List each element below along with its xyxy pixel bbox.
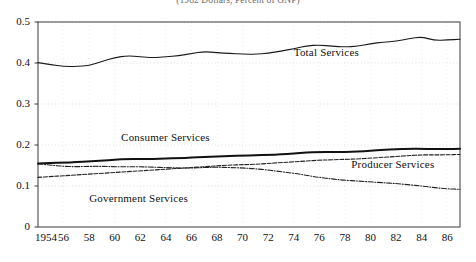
annotation-producer-services: Producer Services <box>351 158 434 170</box>
x-tick-label: 82 <box>385 232 407 243</box>
x-tick-label: 76 <box>308 232 330 243</box>
annotation-consumer-services: Consumer Services <box>121 131 210 143</box>
x-tick-label: 74 <box>283 232 305 243</box>
annotation-total-services: Total Services <box>294 46 359 58</box>
x-tick-label: 66 <box>180 232 202 243</box>
chart-plot-area <box>0 0 476 262</box>
x-tick-label: 62 <box>129 232 151 243</box>
y-tick-label: 0.1 <box>0 180 30 191</box>
x-tick-label: 60 <box>104 232 126 243</box>
x-tick-label: 72 <box>257 232 279 243</box>
x-tick-label: 80 <box>359 232 381 243</box>
y-tick-label: 0.4 <box>0 57 30 68</box>
x-tick-label: 70 <box>232 232 254 243</box>
x-tick-label: 68 <box>206 232 228 243</box>
axis-ticks <box>35 22 39 227</box>
x-tick-label: 58 <box>78 232 100 243</box>
y-tick-label: 0.3 <box>0 98 30 109</box>
x-tick-label: 78 <box>334 232 356 243</box>
x-tick-label: 84 <box>411 232 433 243</box>
x-tick-label: 56 <box>53 232 75 243</box>
y-tick-label: 0.5 <box>0 16 30 27</box>
annotation-government-services: Government Services <box>89 192 188 204</box>
x-tick-label: 64 <box>155 232 177 243</box>
series-line-total-services <box>38 37 460 66</box>
x-tick-label: 86 <box>436 232 458 243</box>
y-tick-label: 0 <box>0 221 30 232</box>
chart-figure: (1982 Dollars, Percent of GNP) 00.10.20.… <box>0 0 476 262</box>
y-tick-label: 0.2 <box>0 139 30 150</box>
